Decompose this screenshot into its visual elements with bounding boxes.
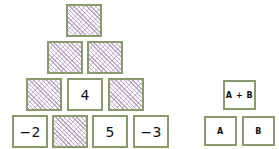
legend-operand-a-label: A xyxy=(217,127,224,136)
pyramid-cell-value: −3 xyxy=(140,125,161,139)
legend-operand-b-cell: B xyxy=(242,116,275,146)
pyramid-cell-r4c4[interactable]: −3 xyxy=(133,115,169,148)
pyramid-cell-r3c1[interactable] xyxy=(26,78,62,111)
pyramid-cell-value: 4 xyxy=(80,88,89,102)
figure-canvas: 4 −2 5 −3 A + B A B xyxy=(0,0,279,149)
pyramid-cell-value: 5 xyxy=(105,125,114,139)
pyramid-cell-value: −2 xyxy=(19,125,40,139)
pyramid-cell-r3c3[interactable] xyxy=(108,78,144,111)
pyramid-cell-r3c2[interactable]: 4 xyxy=(67,78,103,111)
pyramid-cell-r4c3[interactable]: 5 xyxy=(92,115,128,148)
pyramid-cell-r4c1[interactable]: −2 xyxy=(12,115,48,148)
pyramid-cell-r2c1[interactable] xyxy=(47,41,83,74)
legend-operand-b-label: B xyxy=(255,127,262,136)
pyramid-cell-r1c1[interactable] xyxy=(66,4,102,37)
legend-operand-a-cell: A xyxy=(204,116,237,146)
pyramid-cell-r4c2[interactable] xyxy=(52,115,88,148)
legend-sum-cell: A + B xyxy=(223,80,256,110)
legend-sum-label: A + B xyxy=(226,91,254,100)
pyramid-cell-r2c2[interactable] xyxy=(87,41,123,74)
